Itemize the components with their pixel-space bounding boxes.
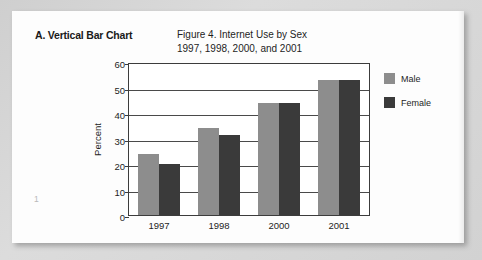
bar-group: 1998 [189, 64, 249, 215]
y-tick-label: 40 [114, 110, 125, 121]
legend-swatch-female [384, 97, 395, 108]
bar-groups: 1997199820002001 [129, 64, 369, 215]
plot-area: 0102030405060 1997199820002001 [128, 63, 370, 216]
legend-swatch-male [384, 73, 395, 84]
legend-label: Female [401, 98, 431, 108]
y-tick-label: 60 [114, 59, 125, 70]
figure-card: A. Vertical Bar Chart Figure 4. Internet… [12, 11, 464, 243]
bar-female-2001 [339, 80, 360, 215]
x-tick-label: 1998 [189, 220, 249, 231]
y-tick-label: 50 [114, 84, 125, 95]
chart-legend: MaleFemale [384, 73, 431, 121]
bar-group: 2000 [249, 64, 309, 215]
bar-male-1997 [138, 154, 159, 215]
bar-group: 2001 [309, 64, 369, 215]
bar-female-2000 [279, 103, 300, 215]
y-tick-mark [125, 217, 129, 218]
bar-male-2000 [258, 103, 279, 215]
bar-chart: Percent 0102030405060 1997199820002001 M… [12, 11, 464, 243]
legend-item-female: Female [384, 97, 431, 108]
y-tick-label: 0 [120, 212, 125, 223]
x-tick-label: 2001 [309, 220, 369, 231]
bar-female-1997 [159, 164, 180, 215]
x-tick-label: 2000 [249, 220, 309, 231]
y-axis-title: Percent [92, 63, 104, 216]
bar-female-1998 [219, 135, 240, 215]
legend-item-male: Male [384, 73, 431, 84]
bar-male-1998 [198, 128, 219, 215]
bar-male-2001 [318, 80, 339, 215]
y-tick-label: 20 [114, 161, 125, 172]
y-tick-label: 30 [114, 135, 125, 146]
scanned-page-background: A. Vertical Bar Chart Figure 4. Internet… [0, 0, 482, 260]
bar-group: 1997 [129, 64, 189, 215]
y-tick-label: 10 [114, 186, 125, 197]
x-tick-label: 1997 [129, 220, 189, 231]
legend-label: Male [401, 74, 421, 84]
